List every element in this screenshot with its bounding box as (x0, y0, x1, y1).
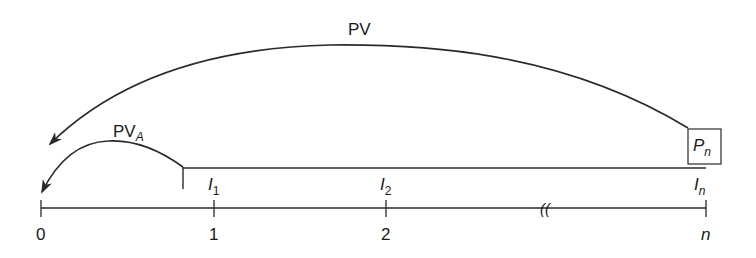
tick-label-0: 0 (36, 225, 45, 244)
income-label-1: I1 (208, 175, 220, 198)
tick-label-1: 1 (209, 225, 218, 244)
pv-label: PV (348, 20, 371, 39)
pva-label: PVA (113, 122, 144, 144)
tick-label-2: 2 (381, 225, 390, 244)
income-label-2: I2 (380, 175, 392, 198)
pv-arc-arrow (50, 45, 688, 144)
income-label-n: In (694, 175, 706, 198)
terminal-payment-box: Pn (688, 129, 721, 164)
pva-arc-arrow (42, 141, 183, 192)
tick-label-n: n (701, 225, 710, 244)
present-value-timeline-diagram: PV PVA Pn I1 I2 In (( 0 1 2 n (0, 0, 756, 258)
